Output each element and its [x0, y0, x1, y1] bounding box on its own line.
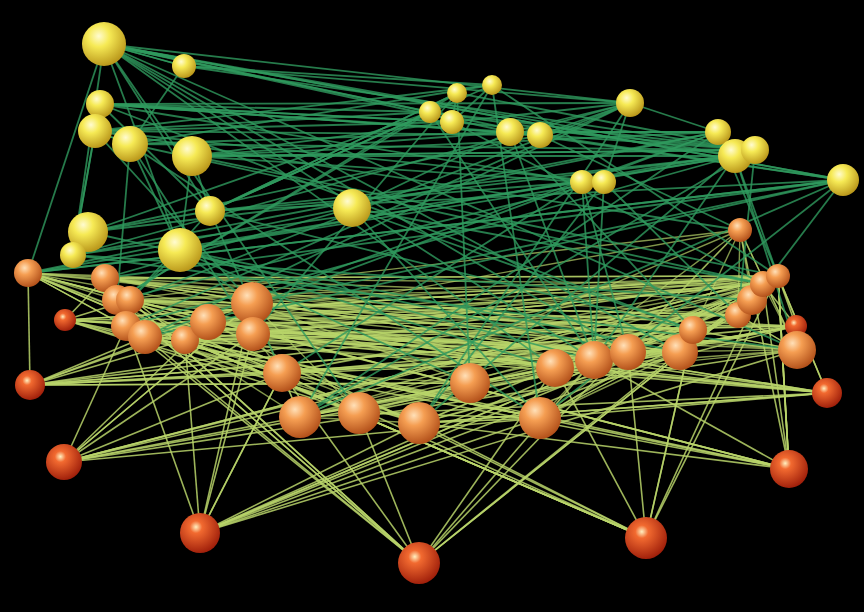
edge: [64, 373, 282, 462]
middle-node-sphere: [728, 218, 752, 242]
middle-node-sphere: [679, 316, 707, 344]
edge: [594, 360, 789, 469]
edge: [419, 423, 646, 538]
middle-node-sphere: [778, 331, 816, 369]
top-node-sphere: [827, 164, 859, 196]
middle-node-sphere: [190, 304, 226, 340]
middle-node-sphere: [128, 320, 162, 354]
top-node-sphere: [195, 196, 225, 226]
top-node-sphere: [419, 101, 441, 123]
middle-node-sphere: [398, 402, 440, 444]
network-graph-canvas: [0, 0, 864, 612]
top-node-sphere: [60, 242, 86, 268]
top-node-sphere: [78, 114, 112, 148]
middle-node-sphere: [279, 396, 321, 438]
middle-node-sphere: [14, 259, 42, 287]
top-node-sphere: [447, 83, 467, 103]
middle-node-sphere: [263, 354, 301, 392]
middle-node-sphere: [536, 349, 574, 387]
top-node-sphere: [172, 54, 196, 78]
top-node-sphere: [570, 170, 594, 194]
top-node-sphere: [333, 189, 371, 227]
bottom-node-sphere: [15, 370, 45, 400]
bottom-node-sphere: [770, 450, 808, 488]
top-node-sphere: [172, 136, 212, 176]
top-node-sphere: [112, 126, 148, 162]
middle-node-sphere: [338, 392, 380, 434]
middle-node-sphere: [575, 341, 613, 379]
middle-node-sphere: [116, 286, 144, 314]
edge: [100, 103, 630, 104]
top-node-sphere: [482, 75, 502, 95]
bottom-node-sphere: [46, 444, 82, 480]
top-node-sphere: [86, 90, 114, 118]
top-node-sphere: [616, 89, 644, 117]
middle-node-sphere: [766, 264, 790, 288]
middle-node-sphere: [519, 397, 561, 439]
top-node-sphere: [440, 110, 464, 134]
middle-node-sphere: [610, 334, 646, 370]
top-node-sphere: [592, 170, 616, 194]
edge: [28, 273, 30, 385]
bottom-node-sphere: [398, 542, 440, 584]
bottom-node-sphere: [812, 378, 842, 408]
top-node-sphere: [158, 228, 202, 272]
edge: [200, 418, 540, 533]
top-node-sphere: [496, 118, 524, 146]
network-visualization: [0, 0, 864, 612]
middle-node-sphere: [236, 317, 270, 351]
bottom-node-sphere: [180, 513, 220, 553]
top-node-sphere: [527, 122, 553, 148]
middle-node-sphere: [450, 363, 490, 403]
bottom-node-sphere: [625, 517, 667, 559]
top-node-sphere: [82, 22, 126, 66]
top-node-sphere: [741, 136, 769, 164]
bottom-node-sphere: [54, 309, 76, 331]
